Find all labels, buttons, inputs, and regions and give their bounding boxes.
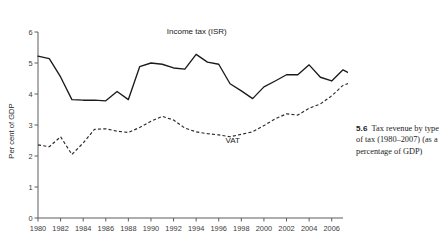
figure-caption-number: 5.6	[356, 124, 368, 133]
x-axis-tick-label: 1996	[211, 224, 227, 233]
series-labels-group: Income tax (ISR)VAT	[167, 27, 240, 145]
x-axis-tick-label: 1982	[52, 224, 68, 233]
x-axis: 1980198219841986198819901992199419961998…	[30, 218, 343, 233]
x-axis-tick-label: 1980	[30, 224, 46, 233]
x-axis-tick-label: 2004	[301, 224, 317, 233]
chart-plot-area: 0123456 19801982198419861988199019921994…	[0, 0, 348, 252]
x-axis-tick-label: 1994	[188, 224, 204, 233]
y-axis-title: Per cent of GDP	[7, 103, 16, 158]
y-axis-tick-label: 1	[28, 183, 32, 192]
y-axis-tick-label: 2	[28, 152, 32, 161]
x-axis-tick-label: 1992	[165, 224, 181, 233]
x-axis-tick-label: 2002	[278, 224, 294, 233]
figure-caption: 5.6 Tax revenue by type of tax (1980–200…	[356, 123, 444, 157]
y-axis-tick-label: 4	[28, 90, 32, 99]
x-axis-tick-label: 1998	[233, 224, 249, 233]
series-line-vat	[38, 82, 348, 155]
y-axis-tick-label: 5	[28, 59, 32, 68]
y-axis: 0123456	[28, 28, 38, 223]
series-label-vat: VAT	[226, 136, 240, 145]
x-axis-tick-label: 2006	[323, 224, 339, 233]
series-line-income-tax-isr	[38, 54, 348, 101]
x-axis-tick-label: 1988	[120, 224, 136, 233]
x-axis-tick-label: 2000	[256, 224, 272, 233]
series-label-income-tax-isr: Income tax (ISR)	[167, 27, 227, 36]
y-axis-tick-label: 6	[28, 28, 32, 37]
data-series-group	[38, 54, 348, 154]
y-axis-tick-label: 0	[28, 214, 32, 223]
tax-revenue-line-chart: 0123456 19801982198419861988199019921994…	[0, 0, 348, 252]
x-axis-tick-label: 1990	[143, 224, 159, 233]
figure-container: 0123456 19801982198419861988199019921994…	[0, 0, 448, 252]
y-axis-tick-label: 3	[28, 121, 32, 130]
x-axis-tick-label: 1986	[98, 224, 114, 233]
x-axis-tick-label: 1984	[75, 224, 91, 233]
